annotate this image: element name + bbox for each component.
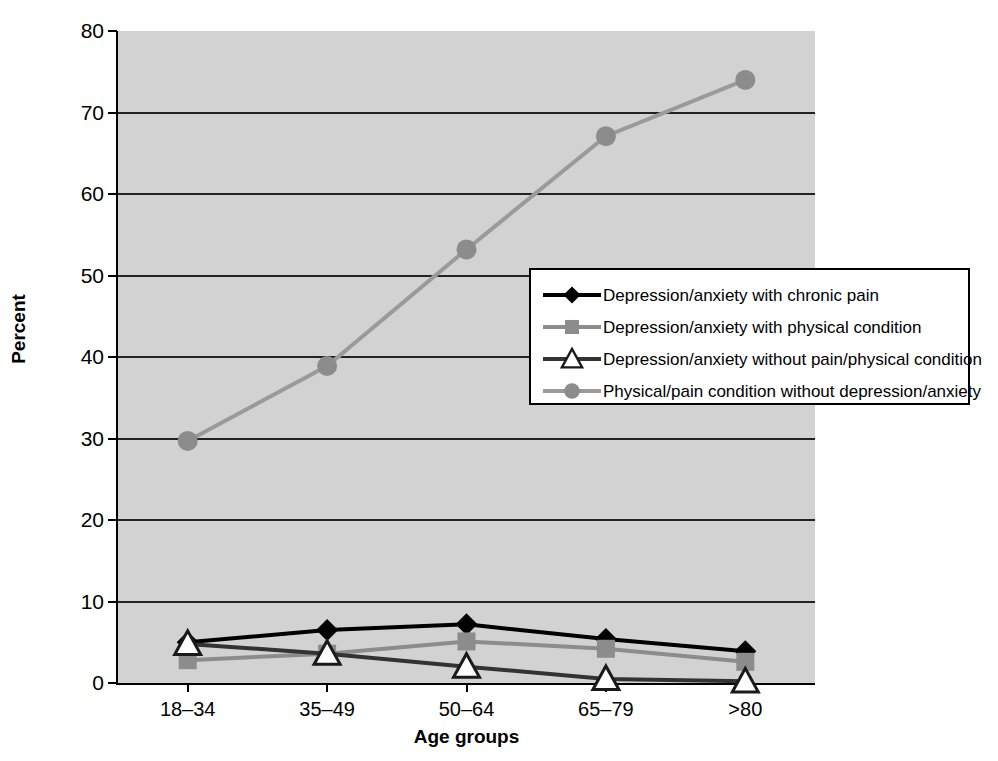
x-tick-mark — [744, 683, 746, 692]
legend-item-4[interactable]: Physical/pain condition without depressi… — [541, 374, 981, 408]
y-tick-mark — [108, 275, 117, 277]
y-tick-label: 40 — [36, 346, 104, 367]
y-tick-mark — [108, 193, 117, 195]
y-axis-line — [116, 31, 118, 685]
chart-legend: Depression/anxiety with chronic painDepr… — [529, 268, 970, 405]
legend-item-label: Depression/anxiety without pain/physical… — [603, 351, 982, 368]
gridline — [118, 601, 815, 603]
y-tick-label: 0 — [36, 672, 104, 693]
y-tick-mark — [108, 112, 117, 114]
gridline — [118, 112, 815, 114]
y-tick-label: 60 — [36, 183, 104, 204]
x-tick-label: 65–79 — [536, 698, 676, 721]
y-tick-label: 50 — [36, 265, 104, 286]
y-tick-mark — [108, 682, 117, 684]
gridline — [118, 438, 815, 440]
x-tick-mark — [466, 683, 468, 692]
y-axis-title: Percent — [8, 274, 30, 384]
y-tick-mark — [108, 519, 117, 521]
legend-item-label: Depression/anxiety with physical conditi… — [603, 319, 921, 336]
legend-item-2[interactable]: Depression/anxiety with physical conditi… — [541, 310, 921, 344]
x-tick-label: >80 — [675, 698, 815, 721]
gridline — [118, 519, 815, 521]
y-tick-mark — [108, 601, 117, 603]
x-axis-title: Age groups — [118, 726, 815, 748]
x-tick-label: 50–64 — [397, 698, 537, 721]
y-tick-mark — [108, 356, 117, 358]
diamond-marker-icon — [541, 282, 603, 308]
x-tick-mark — [326, 683, 328, 692]
x-tick-mark — [187, 683, 189, 692]
square-marker-icon — [541, 314, 603, 340]
circle-marker-icon — [541, 378, 603, 404]
y-tick-label: 20 — [36, 509, 104, 530]
legend-item-1[interactable]: Depression/anxiety with chronic pain — [541, 278, 879, 312]
y-tick-label: 10 — [36, 591, 104, 612]
y-tick-mark — [108, 30, 117, 32]
chart-figure: 01020304050607080 18–3435–4950–6465–79>8… — [0, 0, 998, 761]
x-tick-label: 18–34 — [118, 698, 258, 721]
y-tick-label: 30 — [36, 428, 104, 449]
legend-item-label: Physical/pain condition without depressi… — [603, 383, 981, 400]
x-tick-label: 35–49 — [257, 698, 397, 721]
legend-item-label: Depression/anxiety with chronic pain — [603, 287, 879, 304]
y-tick-label: 70 — [36, 102, 104, 123]
triangle-marker-icon — [541, 346, 603, 372]
x-tick-mark — [605, 683, 607, 692]
y-tick-mark — [108, 438, 117, 440]
gridline — [118, 193, 815, 195]
y-tick-label: 80 — [36, 20, 104, 41]
legend-item-3[interactable]: Depression/anxiety without pain/physical… — [541, 342, 982, 376]
